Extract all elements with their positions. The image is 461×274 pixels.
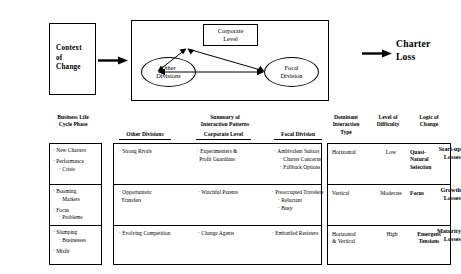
corporate-level-cell-row-2: Change Agents (198, 230, 278, 238)
focal-bullet-2-0: Embattled Resisters (272, 230, 324, 238)
focal-bullet-0-2-text: Fallback Options (283, 164, 320, 170)
level-of-difficulty-row-2: High (376, 231, 408, 238)
corporate-level-label: Corporate Level (218, 27, 244, 43)
other-bullet-2-0: Evolving Competition (119, 230, 197, 238)
life-bullet-2-1: Businesses (53, 237, 103, 245)
logic-head-1: Logic of (409, 114, 449, 121)
focal-division-cell-row-0: Ambivalent Suitors Charter Concerns Fall… (274, 148, 324, 171)
other-bullets-1: Opportunistic Transfers (119, 189, 191, 205)
figure-canvas: Context of Change Corporate Level Other … (0, 0, 461, 274)
other-divisions-cell-row-0: Strong Rivals (119, 148, 191, 156)
life-row-divider-2 (50, 225, 101, 226)
logic-of-change-row-1: Focus (410, 190, 450, 197)
corporate-line-1: Corporate (218, 27, 244, 35)
focal-bullet-0-2: Fallback Options (274, 164, 324, 172)
charter-loss-line-2: Loss (396, 51, 430, 64)
other-divisions-line-2: Divisions (156, 72, 181, 79)
focal-bullets-0: Ambivalent Suitors Charter Concerns Fall… (274, 148, 324, 171)
corp-bullets-1: Watchful Parents (198, 189, 278, 197)
life-bullet-2-2: Misfit (53, 248, 103, 256)
context-line-2: of (56, 54, 82, 64)
focal-bullets-2: Embattled Resisters (272, 230, 324, 238)
dominant-head-3: Type (325, 129, 367, 136)
focal-division-line-1: Focal (284, 64, 298, 71)
header-dominant-interaction-type: Dominant Interaction Type (325, 114, 367, 136)
charter-loss-line-1: Charter (396, 38, 430, 51)
business-life-cycle-table: New Charters Performance Crisis Booming … (49, 143, 102, 265)
corp-bullets-2: Change Agents (198, 230, 278, 238)
dominant-interaction-row-1: Vertical (332, 190, 374, 197)
summary-head-2: Interaction Patterns (170, 121, 280, 128)
life-bullet-2-1-text: Businesses (62, 237, 86, 243)
life-bullet-1-0: Booming (53, 188, 103, 196)
other-bullet-1-1-text: Transfers (121, 197, 141, 203)
interaction-patterns-table: Strong Rivals Experimenters & Profit Gua… (113, 143, 322, 265)
focal-division-line-2: Division (280, 72, 302, 79)
other-bullets-0: Strong Rivals (119, 148, 191, 156)
life-bullet-1-2: Focus (53, 207, 103, 215)
focal-division-ellipse: Focal Division (264, 57, 319, 87)
dominant-interaction-row-0: Horizontal (332, 149, 374, 156)
dominant-head-1: Dominant (325, 114, 367, 121)
focal-division-cell-row-2: Embattled Resisters (272, 230, 324, 238)
other-divisions-cell-row-1: Opportunistic Transfers (119, 189, 191, 205)
context-line-1: Context (56, 44, 82, 54)
focal-bullet-0-1: Charter Concerns (274, 156, 324, 164)
life-bullet-2-0: Slumping (53, 229, 103, 237)
mid-row-divider-2 (114, 225, 321, 226)
arrow-context-to-system-icon (98, 56, 128, 65)
focal-bullets-1: Preoccupied Travelers Reluctant Busy (272, 189, 324, 212)
life-bullets-2: Slumping Businesses Misfit (53, 229, 103, 255)
life-row-divider-1 (50, 184, 101, 185)
life-cell-row-0: New Charters Performance Crisis (53, 147, 103, 173)
focal-bullet-0-1-text: Charter Concerns (283, 156, 321, 162)
corp-bullet-0-1: Profit Guardians (197, 156, 277, 164)
other-bullet-1-1: Transfers (119, 197, 191, 205)
context-of-change-box: Context of Change (49, 23, 96, 95)
level-of-difficulty-row-1: Moderate (372, 190, 410, 197)
life-cycle-head-2: Cycle Phase (36, 121, 110, 128)
other-bullet-0-0: Strong Rivals (119, 148, 191, 156)
life-cell-row-2: Slumping Businesses Misfit (53, 229, 103, 255)
subheader-corporate-level: Corporate Level (196, 131, 251, 140)
difficulty-head-2: Difficulty (369, 121, 407, 128)
focal-bullet-1-2: Busy (272, 205, 324, 213)
corporate-level-box: Corporate Level (203, 24, 258, 46)
life-bullet-0-1: Performance (53, 158, 103, 166)
corporate-line-2: Level (218, 35, 244, 43)
subheader-other-divisions: Other Divisions (119, 131, 171, 140)
life-cycle-head-1: Business Life (36, 114, 110, 121)
life-cell-row-1: Booming Markets Focus Problems (53, 188, 103, 222)
other-bullets-2: Evolving Competition (119, 230, 197, 238)
focal-division-label: Focal Division (280, 64, 302, 80)
corp-bullet-1-0: Watchful Parents (198, 189, 278, 197)
difficulty-head-1: Level of (369, 114, 407, 121)
charter-loss-label: Charter Loss (396, 38, 430, 64)
life-bullets-0: New Charters Performance Crisis (53, 147, 103, 173)
life-bullets-1: Booming Markets Focus Problems (53, 188, 103, 222)
corporate-level-cell-row-0: Experimenters & Profit Guardians (197, 148, 277, 164)
context-line-3: Change (56, 64, 82, 74)
logic-2-line-2: Tensions (408, 238, 450, 245)
logic-of-change-row-0: Quasi- Natural Selection (410, 149, 450, 171)
logic-2-line-1: Emergent (408, 231, 450, 238)
header-summary-of-interaction-patterns: Summary of Interaction Patterns (170, 114, 280, 129)
other-divisions-ellipse: Other Divisions (141, 57, 196, 87)
header-logic-of-change: Logic of Change (409, 114, 449, 129)
corp-bullet-0-1-text: Profit Guardians (199, 156, 235, 162)
change-attributes-table: Horizontal Low Quasi- Natural Selection … (327, 143, 451, 265)
focal-bullet-1-0: Preoccupied Travelers (272, 189, 324, 197)
logic-of-change-row-2: Emergent Tensions (408, 231, 450, 246)
dominant-2-line-1: Horizontal (332, 231, 376, 238)
life-bullet-0-0: New Charters (53, 147, 103, 155)
focal-bullet-1-1: Reluctant (272, 197, 324, 205)
life-bullet-1-1: Markets (53, 196, 103, 204)
logic-0-line-1: Quasi- (410, 149, 450, 156)
right-row-divider-2 (328, 225, 450, 226)
life-bullet-1-3-text: Problems (62, 214, 82, 220)
arrow-system-to-charter-loss-icon (362, 49, 392, 58)
corp-bullet-2-0: Change Agents (198, 230, 278, 238)
corp-bullet-0-0: Experimenters & (197, 148, 277, 156)
focal-bullet-0-0: Ambivalent Suitors (274, 148, 324, 156)
dominant-2-line-2: & Vertical (332, 238, 376, 245)
